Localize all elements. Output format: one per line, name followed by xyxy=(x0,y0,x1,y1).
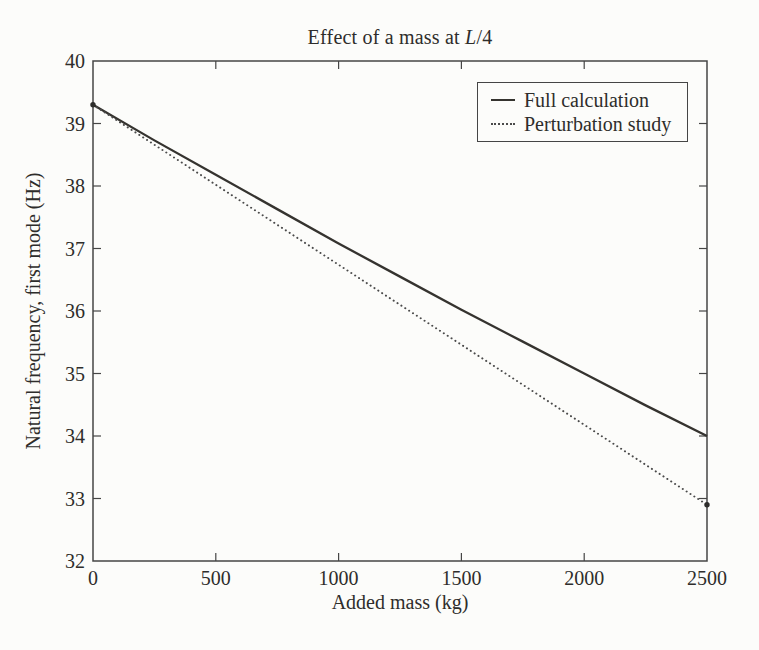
data-point-marker xyxy=(704,502,709,507)
y-axis-label: Natural frequency, first mode (Hz) xyxy=(22,173,45,450)
y-tick-label: 37 xyxy=(65,238,85,260)
legend-item-perturbation-study: Perturbation study xyxy=(491,112,687,136)
legend-item-full-calculation: Full calculation xyxy=(491,88,687,112)
y-tick-label: 40 xyxy=(65,50,85,72)
series-full-calculation xyxy=(93,105,707,436)
legend-label-full-calculation: Full calculation xyxy=(524,89,649,112)
legend-label-perturbation-study: Perturbation study xyxy=(524,113,671,136)
data-point-marker xyxy=(90,102,95,107)
y-tick-label: 33 xyxy=(65,488,85,510)
series-perturbation-study xyxy=(93,105,707,505)
y-tick-label: 32 xyxy=(65,550,85,572)
x-tick-label: 2000 xyxy=(564,567,604,589)
dotted-line-sample xyxy=(491,123,515,125)
x-tick-label: 500 xyxy=(201,567,231,589)
solid-line-sample xyxy=(491,99,515,101)
chart-figure: Effect of a mass at L/4 0500100015002000… xyxy=(0,0,759,650)
x-tick-label: 2500 xyxy=(687,567,727,589)
x-tick-label: 1500 xyxy=(441,567,481,589)
y-tick-label: 38 xyxy=(65,175,85,197)
x-tick-label: 1000 xyxy=(319,567,359,589)
y-tick-label: 36 xyxy=(65,300,85,322)
y-tick-label: 35 xyxy=(65,363,85,385)
x-axis-label: Added mass (kg) xyxy=(93,591,707,614)
y-tick-label: 34 xyxy=(65,425,85,447)
x-tick-label: 0 xyxy=(88,567,98,589)
y-tick-label: 39 xyxy=(65,113,85,135)
legend: Full calculation Perturbation study xyxy=(477,82,688,142)
